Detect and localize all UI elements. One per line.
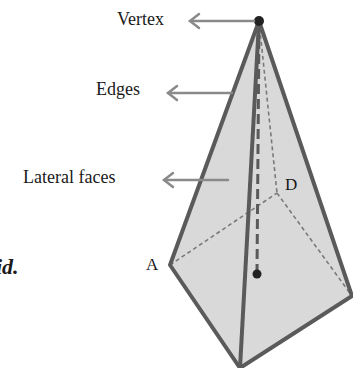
base-center-dot — [253, 270, 262, 279]
point-d-label: D — [285, 176, 297, 193]
lateral-faces-label: Lateral faces — [23, 168, 115, 186]
vertex-dot — [254, 16, 264, 26]
point-a-label: A — [146, 256, 158, 273]
vertex-label: Vertex — [117, 10, 164, 28]
edges-label: Edges — [96, 80, 140, 98]
cut-off-text: id. — [0, 256, 19, 278]
